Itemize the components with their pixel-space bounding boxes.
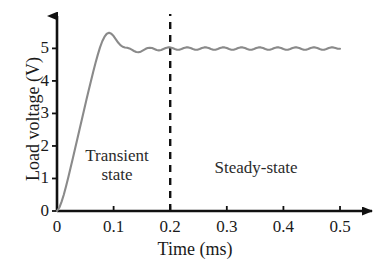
x-axis-title: Time (ms) bbox=[0, 240, 390, 258]
y-axis-tick-label: 5 bbox=[7, 39, 49, 56]
chart-figure: Load voltage (V) Time (ms) 012345 00.10.… bbox=[0, 0, 390, 266]
y-axis-tick-label: 1 bbox=[7, 169, 49, 186]
annotation-transient-state: Transient state bbox=[62, 146, 172, 184]
y-axis-tick-label: 0 bbox=[7, 202, 49, 219]
x-axis-tick-label: 0.5 bbox=[315, 218, 365, 235]
x-axis-tick-label: 0.4 bbox=[258, 218, 308, 235]
y-axis-tick-label: 2 bbox=[7, 137, 49, 154]
y-axis-tick-label: 3 bbox=[7, 104, 49, 121]
x-axis-tick-label: 0.2 bbox=[145, 218, 195, 235]
data-series-load-voltage bbox=[57, 33, 340, 211]
annotation-steady-state: Steady-state bbox=[186, 158, 326, 177]
x-axis-tick-label: 0.3 bbox=[202, 218, 252, 235]
y-axis-tick-label: 4 bbox=[7, 72, 49, 89]
x-axis-tick-label: 0.1 bbox=[89, 218, 139, 235]
x-axis-tick-label: 0 bbox=[32, 218, 82, 235]
